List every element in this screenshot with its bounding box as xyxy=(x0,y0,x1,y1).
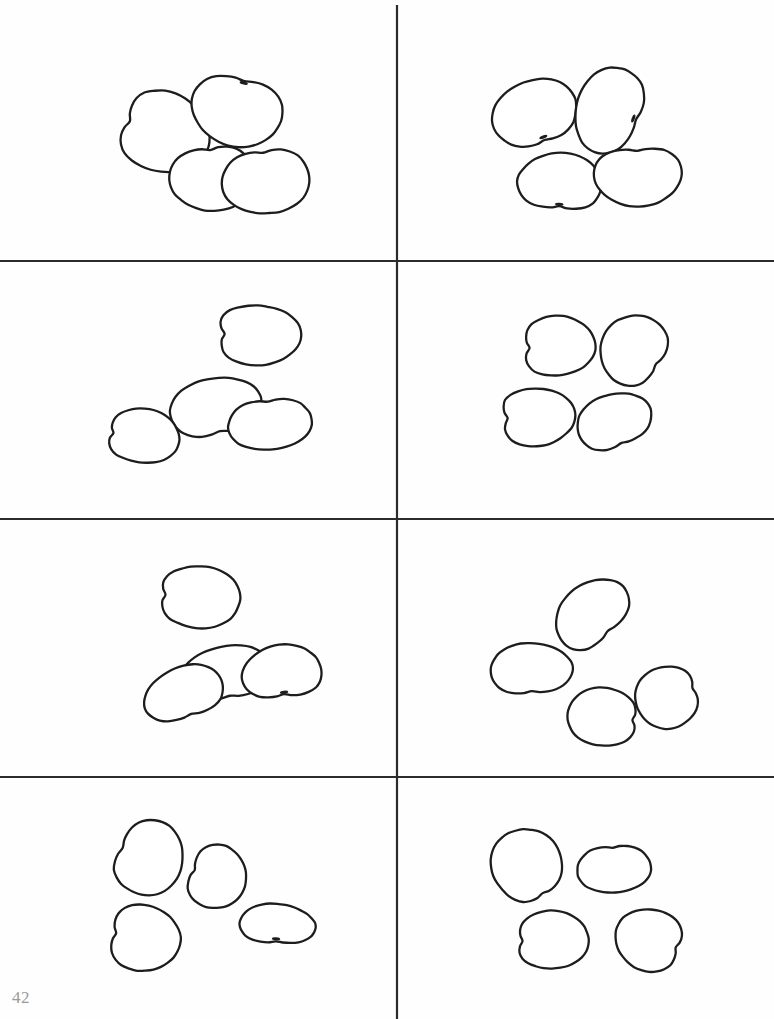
page-number: 42 xyxy=(12,988,30,1008)
grid-cell-r4-c2[interactable] xyxy=(397,777,774,1019)
grid-cell-r1-c2[interactable] xyxy=(397,0,774,261)
grid-cell-r1-c1[interactable] xyxy=(0,0,397,261)
grid-cell-r3-c2[interactable] xyxy=(397,519,774,777)
grid-cell-r2-c1[interactable] xyxy=(0,261,397,519)
grid-cell-r2-c2[interactable] xyxy=(397,261,774,519)
grid-cell-r4-c1[interactable] xyxy=(0,777,397,1019)
grid-cell-r3-c1[interactable] xyxy=(0,519,397,777)
worksheet-page: 42 xyxy=(0,0,774,1019)
